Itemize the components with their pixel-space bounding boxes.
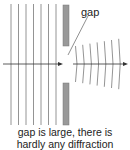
incoming-wavefronts xyxy=(11,4,56,125)
outgoing-arrowhead xyxy=(123,62,128,66)
gap-label: gap xyxy=(81,6,99,18)
gap-pointer xyxy=(68,16,88,55)
incoming-arrowhead xyxy=(58,62,63,66)
barrier-bottom xyxy=(63,83,69,125)
caption-line-1: gap is large, there is xyxy=(0,126,130,138)
caption-line-2: hardly any diffraction xyxy=(0,138,130,150)
barrier-top xyxy=(63,5,69,46)
